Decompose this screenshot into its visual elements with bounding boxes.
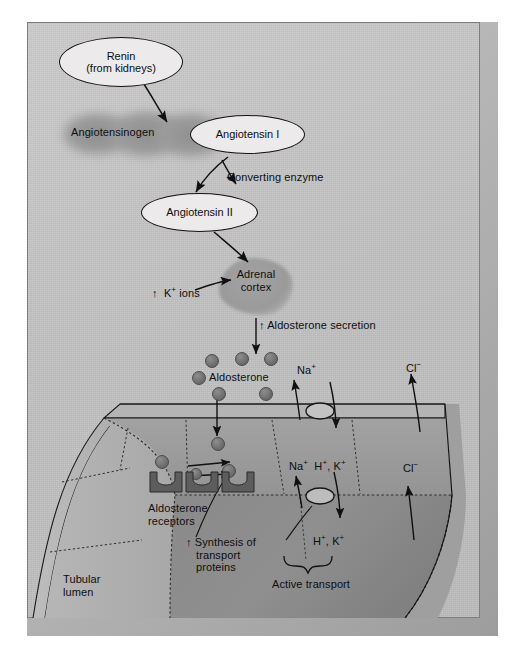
synthesis-line3: proteins — [186, 561, 256, 574]
cl-basal-label: Cl− — [403, 462, 418, 475]
angiotensinogen-label: Angiotensinogen — [71, 126, 154, 139]
aldosterone-secretion-label: ↑ Aldosterone secretion — [259, 319, 376, 332]
k-ions-up-arrow: ↑ — [152, 287, 158, 299]
tubular-lumen-line2: lumen — [63, 586, 101, 599]
tubular-lumen-line1: Tubular — [63, 573, 101, 586]
synthesis-line2: transport — [186, 549, 256, 562]
node-renin[interactable]: Renin (from kidneys) — [59, 37, 183, 87]
aldosterone-secretion-up-arrow: ↑ — [259, 319, 265, 331]
node-renin-line1: Renin — [86, 50, 156, 63]
node-renin-line2: (from kidneys) — [86, 62, 156, 75]
aldosterone-receptor-3 — [222, 472, 254, 492]
na-basal-label: Na+ H+, K+ — [289, 460, 346, 473]
aldosterone-label: Aldosterone — [209, 371, 269, 384]
node-angiotensin-2[interactable]: Angiotensin II — [141, 193, 258, 232]
figure-canvas: Renin (from kidneys) Angiotensin I Angio… — [0, 0, 509, 647]
cl-apical-label: Cl− — [406, 362, 421, 375]
aldosterone-receptors-label: Aldosterone receptors — [148, 502, 208, 527]
aldosterone-receptor-2 — [186, 472, 218, 492]
aldosterone-receptors-line1: Aldosterone — [148, 502, 208, 515]
aldosterone-secretion-text: Aldosterone secretion — [267, 319, 376, 331]
active-transport-label: Active transport — [272, 578, 350, 591]
synthesis-line1: Synthesis of — [195, 536, 256, 548]
synthesis-up-arrow: ↑ — [186, 536, 192, 548]
aldosterone-receptor-1 — [150, 472, 182, 492]
synthesis-label: ↑ Synthesis of transport proteins — [186, 536, 256, 574]
tubular-lumen-label: Tubular lumen — [63, 573, 101, 598]
node-angiotensin-1-label: Angiotensin I — [216, 128, 280, 141]
k-ions-label: ↑ K+ ions — [152, 287, 200, 300]
hk-out-label: H+, K+ — [313, 535, 344, 548]
na-apical-label: Na+ — [297, 364, 316, 377]
adrenal-cortex-label: Adrenal cortex — [237, 268, 276, 293]
converting-enzyme-label: Converting enzyme — [227, 171, 323, 184]
k-ions-text: K+ ions — [161, 287, 200, 299]
aldosterone-receptors-line2: receptors — [148, 515, 208, 528]
adrenal-cortex-line1: Adrenal — [237, 268, 276, 281]
adrenal-cortex-line2: cortex — [237, 281, 276, 294]
node-angiotensin-1[interactable]: Angiotensin I — [190, 115, 305, 154]
node-angiotensin-2-label: Angiotensin II — [166, 206, 233, 219]
